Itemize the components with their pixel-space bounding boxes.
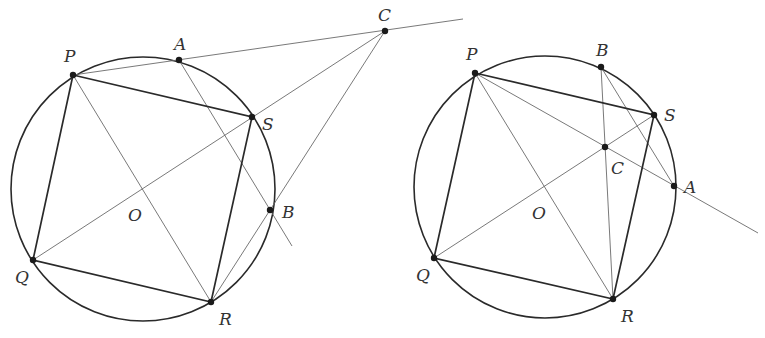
- right-figure-point-s: [651, 112, 657, 118]
- left-figure-label-p: P: [63, 46, 76, 66]
- left-figure-line-p-a-c-line: [73, 19, 463, 75]
- left-figure-label-q: Q: [15, 267, 29, 287]
- left-figure-label-b: B: [281, 202, 295, 222]
- left-figure-label-s: S: [262, 114, 274, 134]
- diagram-stage: PASBRQCOPBSCARQO: [0, 0, 765, 338]
- right-figure-label-s: S: [664, 105, 676, 125]
- right-figure-label-o: O: [532, 203, 546, 223]
- right-figure-point-b: [598, 64, 604, 70]
- right-figure-label-a: A: [682, 177, 696, 197]
- left-figure-line-c-b-r-line: [211, 31, 385, 302]
- left-figure-point-r: [208, 299, 214, 305]
- right-figure-line-p-r-diagonal: [475, 73, 613, 299]
- left-figure-label-a: A: [172, 34, 186, 54]
- right-figure-label-q: Q: [416, 265, 430, 285]
- left-figure-line-p-r-diagonal: [73, 75, 211, 302]
- left-figure-point-q: [30, 257, 36, 263]
- right-figure-label-p: P: [465, 44, 478, 64]
- right-figure-label-c: C: [611, 158, 624, 178]
- geometry-diagram: PASBRQCOPBSCARQO: [0, 0, 765, 338]
- right-figure-line-p-c-a-line: [475, 73, 758, 233]
- left-figure-label-r: R: [218, 309, 232, 329]
- left-figure-point-s: [249, 114, 255, 120]
- left-figure-label-c: C: [378, 5, 391, 25]
- left-figure-point-p: [70, 72, 76, 78]
- right-figure-point-q: [431, 255, 437, 261]
- right-figure-label-r: R: [620, 306, 634, 326]
- left-figure-point-c: [382, 28, 388, 34]
- left-figure-point-b: [267, 207, 273, 213]
- left-figure-point-a: [176, 57, 182, 63]
- right-figure-point-a: [671, 183, 677, 189]
- left-figure-label-o: O: [128, 205, 142, 225]
- right-figure-line-b-c-r-line: [601, 67, 613, 299]
- right-figure-label-b: B: [595, 40, 609, 60]
- right-figure-point-c: [602, 144, 608, 150]
- left-figure-line-a-b-line: [179, 60, 292, 246]
- right-figure-point-r: [610, 296, 616, 302]
- right-figure-point-p: [472, 70, 478, 76]
- left-figure-line-q-s-c-line: [33, 31, 385, 260]
